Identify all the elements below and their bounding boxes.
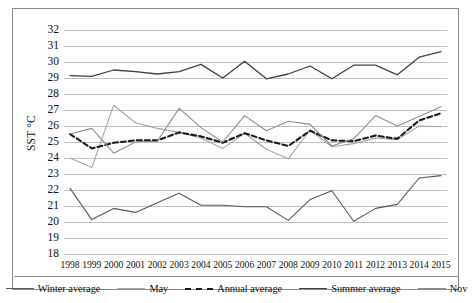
legend-swatch-icon [185, 285, 213, 292]
y-tick-label: 27 [33, 104, 59, 115]
x-tick-label: 2008 [279, 259, 298, 271]
x-tick-label: 2015 [431, 259, 450, 271]
y-tick-label: 21 [33, 200, 59, 211]
y-tick-label: 24 [33, 152, 59, 163]
y-tick-label: 25 [33, 136, 59, 147]
x-tick-label: 2001 [126, 259, 145, 271]
x-axis-tick-labels: 1998199920002001200220032004200520062007… [64, 259, 447, 273]
legend-label: Winter average [38, 283, 101, 294]
x-tick-label: 2000 [104, 259, 123, 271]
plot-area: SST °C 323130292827262524232221201918 19… [13, 9, 460, 291]
legend-item-annual-average[interactable]: Annual average [185, 283, 282, 294]
series-line-nov [70, 107, 441, 153]
y-tick-label: 31 [33, 40, 59, 51]
chart-legend: Winter averageMayAnnual averageSummer av… [13, 283, 460, 294]
x-tick-label: 2007 [257, 259, 276, 271]
y-tick-label: 30 [33, 56, 59, 67]
series-line-summer-average [70, 52, 441, 79]
legend-swatch-icon [6, 285, 34, 292]
legend-item-nov[interactable]: Nov [418, 283, 468, 294]
x-tick-label: 1998 [60, 259, 79, 271]
x-tick-label: 2004 [191, 259, 210, 271]
x-tick-label: 1999 [82, 259, 101, 271]
x-tick-label: 2002 [148, 259, 167, 271]
y-tick-label: 29 [33, 72, 59, 83]
x-tick-label: 2006 [235, 259, 254, 271]
legend-swatch-icon [418, 285, 446, 292]
legend-label: Summer average [331, 283, 400, 294]
legend-label: Annual average [217, 283, 282, 294]
chart-container: SST °C 323130292827262524232221201918 19… [12, 8, 459, 290]
y-tick-label: 23 [33, 168, 59, 179]
y-tick-label: 32 [33, 24, 59, 35]
legend-swatch-icon [299, 285, 327, 292]
y-axis-tick-labels: 323130292827262524232221201918 [33, 9, 59, 291]
x-tick-label: 2011 [344, 259, 363, 271]
series-line-winter-average [70, 176, 441, 222]
series-lines [64, 9, 447, 291]
x-tick-label: 2012 [366, 259, 385, 271]
x-tick-label: 2014 [410, 259, 429, 271]
x-tick-label: 2009 [300, 259, 319, 271]
x-tick-label: 2005 [213, 259, 232, 271]
y-tick-label: 28 [33, 88, 59, 99]
x-tick-label: 2003 [170, 259, 189, 271]
legend-divider [14, 276, 459, 277]
y-tick-label: 19 [33, 232, 59, 243]
y-tick-label: 22 [33, 184, 59, 195]
y-tick-label: 18 [33, 248, 59, 259]
y-tick-label: 20 [33, 216, 59, 227]
legend-label: May [149, 283, 168, 294]
x-tick-label: 2010 [322, 259, 341, 271]
legend-swatch-icon [117, 285, 145, 292]
y-tick-label: 26 [33, 120, 59, 131]
legend-item-winter-average[interactable]: Winter average [6, 283, 101, 294]
legend-item-summer-average[interactable]: Summer average [299, 283, 400, 294]
legend-label: Nov [450, 283, 468, 294]
x-tick-label: 2013 [388, 259, 407, 271]
series-line-annual-average [70, 113, 441, 148]
legend-item-may[interactable]: May [117, 283, 168, 294]
